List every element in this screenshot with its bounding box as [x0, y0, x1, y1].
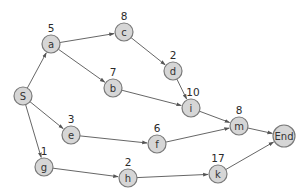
node-b: b7: [104, 66, 122, 97]
node-k: k17: [209, 152, 227, 183]
node-label: End: [274, 131, 293, 142]
node-label: a: [48, 39, 54, 50]
edge-h-to-k: [137, 174, 208, 177]
node-weight-label: 1: [41, 145, 48, 157]
node-f: f6: [148, 122, 166, 153]
node-h: h2: [119, 156, 137, 187]
node-weight-label: 7: [110, 66, 117, 78]
node-m: m8: [230, 104, 248, 135]
node-label: i: [190, 103, 193, 114]
node-weight-label: 8: [236, 104, 243, 116]
edge-b-to-i: [122, 90, 182, 105]
node-weight-label: 6: [154, 122, 161, 134]
node-label: g: [41, 162, 47, 173]
edge-S-to-g: [26, 105, 42, 158]
node-weight-label: 2: [170, 49, 177, 61]
node-label: f: [155, 139, 159, 150]
node-g: g1: [35, 145, 53, 176]
node-label: b: [110, 83, 116, 94]
node-weight-label: 5: [48, 22, 55, 34]
node-i: i10: [182, 86, 200, 117]
edge-k-to-End: [226, 142, 274, 170]
edge-d-to-i: [177, 79, 187, 99]
node-a: a5: [42, 22, 60, 53]
node-label: e: [68, 130, 74, 141]
node-weight-label: 2: [125, 156, 132, 168]
node-weight-label: 3: [68, 113, 75, 125]
network-diagram: Sa5c8b7d2i10e3f6m8Endg1h2k17: [0, 0, 306, 195]
edge-i-to-m: [199, 111, 229, 122]
edge-g-to-h: [53, 168, 118, 177]
node-weight-label: 17: [211, 152, 224, 164]
edge-c-to-d: [131, 38, 165, 65]
edge-a-to-b: [58, 49, 105, 82]
node-weight-label: 10: [186, 86, 199, 98]
node-label: m: [234, 121, 244, 132]
node-e: e3: [62, 113, 80, 144]
node-end: End: [273, 125, 295, 147]
node-weight-label: 8: [121, 10, 128, 22]
node-label: c: [121, 27, 127, 38]
edge-S-to-a: [27, 53, 46, 88]
edge-S-to-e: [30, 102, 63, 129]
node-s: S: [14, 87, 32, 105]
node-label: k: [215, 169, 221, 180]
edge-f-to-m: [166, 128, 229, 142]
node-label: d: [170, 66, 176, 77]
edge-m-to-End: [248, 128, 272, 133]
edge-a-to-c: [60, 34, 114, 43]
node-c: c8: [115, 10, 133, 41]
edge-e-to-f: [80, 136, 147, 143]
node-d: d2: [164, 49, 182, 80]
node-label: h: [125, 173, 131, 184]
node-label: S: [20, 91, 26, 102]
